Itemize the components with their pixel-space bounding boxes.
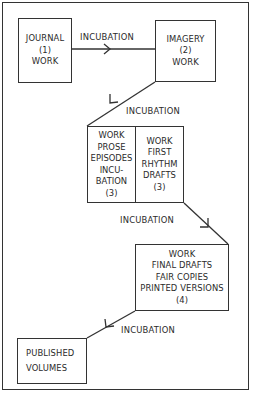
edge-split-final (184, 203, 228, 244)
published-volumes-box: PUBLISHED VOLUMES (17, 338, 87, 384)
box-text: INCU- (100, 165, 124, 177)
box-text: JOURNAL (26, 33, 64, 45)
split-box: WORK PROSE EPISODES INCU- BATION (3) WOR… (87, 126, 184, 203)
box-text: (2) (179, 45, 191, 57)
box-text: WORK (169, 249, 196, 261)
edge-label: INCUBATION (126, 106, 180, 116)
box-text: EPISODES (91, 153, 133, 165)
journal-box: JOURNAL (1) WORK (18, 18, 72, 83)
box-text: RHYTHM (142, 159, 178, 171)
box-text: FIRST (148, 147, 172, 159)
box-text: WORK (32, 56, 59, 68)
imagery-box: IMAGERY (2) WORK (155, 20, 216, 82)
box-text: WORK (172, 57, 199, 69)
box-text: FINAL DRAFTS (152, 260, 213, 272)
rhythm-drafts-cell: WORK FIRST RHYTHM DRAFTS (3) (136, 127, 183, 202)
edge-label: INCUBATION (80, 32, 134, 42)
prose-episodes-cell: WORK PROSE EPISODES INCU- BATION (3) (88, 127, 136, 202)
box-text: WORK (98, 130, 124, 142)
box-text: (4) (176, 295, 188, 307)
box-text: DRAFTS (143, 170, 176, 182)
box-text: FAIR COPIES (156, 272, 208, 284)
edge-label: INCUBATION (121, 325, 175, 335)
edge-label: INCUBATION (120, 215, 174, 225)
box-text: PUBLISHED (26, 348, 74, 360)
box-text: (1) (39, 45, 51, 57)
box-text: WORK (146, 136, 172, 148)
box-text: BATION (96, 176, 127, 188)
box-text: VOLUMES (26, 363, 67, 375)
box-text: PRINTED VERSIONS (140, 283, 224, 295)
box-text: PROSE (97, 142, 125, 154)
box-text: IMAGERY (166, 34, 204, 46)
edge-imagery-split (87, 82, 155, 126)
box-text: (3) (106, 188, 118, 200)
arrow-down-left-icon (110, 94, 118, 103)
box-text: (3) (154, 182, 166, 194)
final-drafts-box: WORK FINAL DRAFTS FAIR COPIES PRINTED VE… (135, 244, 229, 311)
